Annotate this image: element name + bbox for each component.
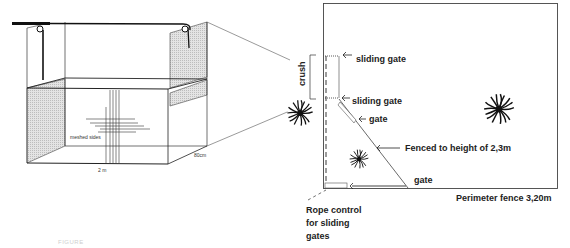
mesh-panel-icon xyxy=(27,79,65,163)
fenced-height-label: Fenced to height of 2,3m xyxy=(405,144,511,153)
tree-icon xyxy=(287,100,312,125)
depth-dimension-label: 80cm xyxy=(194,153,206,158)
sliding-gate-top-label: sliding gate xyxy=(356,55,406,64)
diagram-canvas xyxy=(0,0,570,248)
crush-box-drawing xyxy=(12,22,292,164)
pulley-icon xyxy=(182,26,188,32)
gate-bottom-label: gate xyxy=(414,176,433,185)
tree-icon xyxy=(484,94,514,124)
rope-control-label-line2: for sliding xyxy=(306,219,350,228)
figure-caption: FIGURE xyxy=(58,239,84,245)
width-dimension-label: 2 m xyxy=(98,168,106,173)
perimeter-fence-label: Perimeter fence 3,20m xyxy=(456,194,552,203)
meshed-sides-label: meshed sides xyxy=(70,135,101,140)
enclosure-plan-drawing xyxy=(287,4,557,201)
rope-control-label-line3: gates xyxy=(306,232,330,241)
sliding-gate-bottom-label: sliding gate xyxy=(352,97,402,106)
crush-label: crush xyxy=(298,61,307,86)
tree-icon xyxy=(350,150,369,169)
pulley-icon xyxy=(37,26,43,32)
gate-diagonal-label: gate xyxy=(369,115,388,124)
rope-control-label-line1: Rope control xyxy=(306,206,362,215)
